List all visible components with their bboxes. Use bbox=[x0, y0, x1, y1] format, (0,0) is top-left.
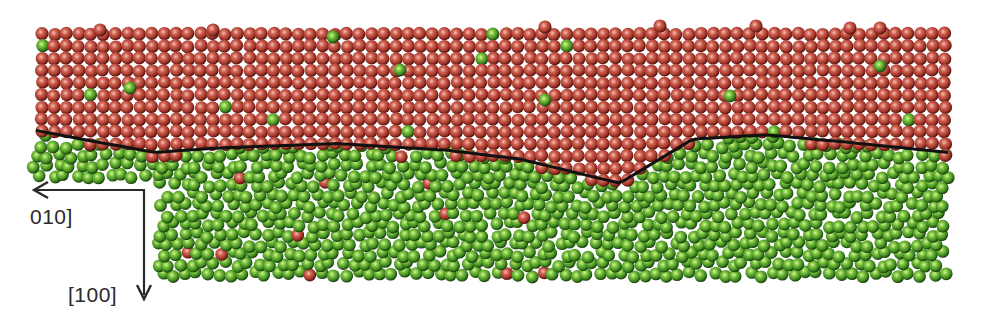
crystalline-atom bbox=[35, 112, 48, 125]
crystalline-atom bbox=[694, 64, 707, 77]
crystalline-atom bbox=[157, 113, 170, 126]
crystalline-atom bbox=[926, 101, 939, 114]
crystalline-atom bbox=[462, 52, 475, 65]
crystalline-atom bbox=[671, 88, 684, 101]
crystalline-atom bbox=[462, 112, 475, 125]
crystalline-atom bbox=[498, 64, 511, 77]
crystalline-atom bbox=[755, 40, 768, 53]
crystalline-atom bbox=[572, 125, 585, 138]
crystalline-atom bbox=[450, 40, 463, 53]
crystalline-atom bbox=[779, 27, 792, 40]
crystalline-atom bbox=[303, 269, 316, 282]
crystalline-atom bbox=[243, 138, 256, 151]
amorphous-atom bbox=[234, 160, 247, 173]
crystalline-atom bbox=[158, 76, 171, 89]
crystalline-atom bbox=[365, 27, 378, 40]
crystalline-atom bbox=[901, 64, 914, 77]
crystalline-atom bbox=[536, 113, 549, 126]
crystalline-atom bbox=[901, 101, 914, 114]
amorphous-atom bbox=[897, 210, 910, 223]
amorphous-atom bbox=[867, 220, 880, 233]
crystalline-atom bbox=[767, 40, 780, 53]
crystalline-atom bbox=[353, 64, 366, 77]
crystalline-atom bbox=[244, 64, 257, 77]
crystalline-atom bbox=[596, 150, 609, 163]
crystalline-atom bbox=[535, 149, 548, 162]
crystalline-atom bbox=[72, 101, 85, 114]
crystalline-atom bbox=[267, 125, 280, 138]
crystalline-atom bbox=[120, 64, 133, 77]
crystalline-atom bbox=[840, 77, 853, 90]
crystalline-atom bbox=[890, 100, 903, 113]
simulation-snapshot bbox=[0, 0, 983, 334]
crystalline-atom bbox=[145, 100, 158, 113]
amorphous-atom bbox=[240, 191, 253, 204]
crystalline-atom bbox=[646, 51, 659, 64]
crystalline-atom bbox=[352, 113, 365, 126]
crystalline-atom bbox=[937, 76, 950, 89]
crystalline-atom bbox=[559, 51, 572, 64]
crystalline-atom bbox=[730, 27, 743, 40]
crystalline-atom bbox=[451, 88, 464, 101]
crystalline-atom bbox=[620, 88, 633, 101]
crystalline-atom bbox=[779, 100, 792, 113]
amorphous-atom bbox=[765, 230, 778, 243]
crystalline-atom bbox=[560, 28, 573, 41]
amorphous-atom bbox=[832, 250, 845, 263]
crystalline-atom bbox=[255, 27, 268, 40]
crystalline-atom bbox=[133, 28, 146, 41]
crystalline-atom bbox=[938, 27, 951, 40]
amorphous-atom bbox=[568, 218, 581, 231]
amorphous-atom bbox=[813, 180, 826, 193]
crystalline-atom bbox=[365, 65, 378, 78]
crystalline-atom bbox=[743, 63, 756, 76]
crystalline-atom bbox=[194, 64, 207, 77]
crystalline-atom bbox=[206, 51, 219, 64]
crystalline-atom bbox=[610, 112, 623, 125]
crystalline-atom bbox=[731, 64, 744, 77]
amorphous-atom bbox=[347, 207, 360, 220]
crystalline-atom bbox=[194, 88, 207, 101]
crystalline-atom bbox=[730, 51, 743, 64]
crystalline-atom bbox=[670, 39, 683, 52]
crystalline-atom bbox=[780, 64, 793, 77]
amorphous-atom bbox=[275, 190, 288, 203]
crystalline-atom bbox=[511, 114, 524, 127]
crystalline-atom bbox=[609, 162, 622, 175]
amorphous-atom bbox=[542, 240, 555, 253]
crystalline-atom bbox=[255, 112, 268, 125]
amorphous-atom bbox=[667, 210, 680, 223]
crystalline-atom bbox=[364, 125, 377, 138]
crystalline-atom bbox=[425, 64, 438, 77]
amorphous-atom bbox=[441, 220, 454, 233]
crystalline-atom bbox=[108, 77, 121, 90]
crystalline-atom bbox=[328, 89, 341, 102]
crystalline-atom bbox=[682, 40, 695, 53]
crystalline-atom bbox=[146, 113, 159, 126]
amorphous-atom bbox=[243, 240, 256, 253]
amorphous-atom bbox=[348, 170, 361, 183]
crystalline-atom bbox=[718, 27, 731, 40]
crystalline-atom bbox=[364, 137, 377, 150]
crystalline-atom bbox=[518, 211, 531, 224]
crystalline-atom bbox=[840, 112, 853, 125]
crystalline-atom bbox=[316, 112, 329, 125]
amorphous-atom bbox=[783, 140, 796, 153]
crystalline-atom bbox=[743, 52, 756, 65]
crystalline-atom bbox=[487, 63, 500, 76]
crystalline-atom bbox=[511, 126, 524, 139]
crystalline-atom bbox=[828, 51, 841, 64]
crystalline-atom bbox=[658, 40, 671, 53]
crystalline-atom bbox=[218, 52, 231, 65]
crystalline-atom bbox=[109, 124, 122, 137]
crystalline-atom bbox=[365, 89, 378, 102]
crystalline-atom bbox=[438, 124, 451, 137]
crystalline-atom bbox=[549, 113, 562, 126]
crystalline-atom bbox=[706, 77, 719, 90]
crystalline-atom bbox=[93, 23, 106, 36]
crystalline-atom bbox=[438, 113, 451, 126]
crystalline-atom bbox=[279, 125, 292, 138]
crystalline-atom bbox=[573, 113, 586, 126]
crystalline-atom bbox=[682, 28, 695, 41]
amorphous-atom bbox=[378, 238, 391, 251]
